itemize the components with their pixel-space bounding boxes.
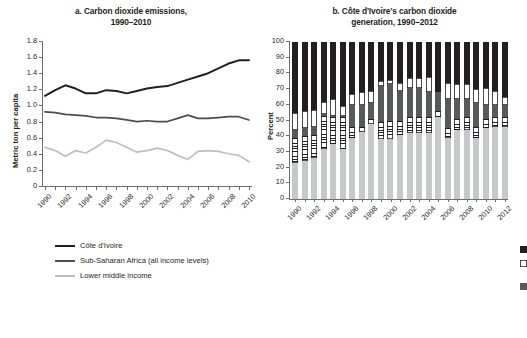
panel-b-bar-segment	[445, 99, 451, 129]
panel-b-bar-segment	[340, 117, 346, 148]
panel-a-x-tick-label: 2010	[233, 192, 258, 217]
panel-b-x-tick	[438, 199, 439, 202]
legend-item: Other sectors, excluding residential bui…	[520, 282, 527, 301]
panel-b-bar-segment	[435, 91, 441, 93]
panel-b-bar-segment	[397, 121, 403, 135]
panel-b-y-tick-label: 100	[263, 37, 284, 44]
panel-b-bar-segment	[311, 158, 317, 199]
panel-a-x-tick-label: 1990	[29, 192, 54, 217]
panel-b-x-tick	[352, 199, 353, 202]
panel-b-bar	[473, 42, 479, 199]
panel-b-bar-segment	[311, 110, 317, 127]
panel-b-bar-segment	[330, 144, 336, 199]
panel-a-line-chart: a. Carbon dioxide emissions, 1990–2010 M…	[0, 0, 262, 338]
panel-b-bar-segment	[302, 161, 308, 199]
panel-b-bar-segment	[426, 133, 432, 199]
panel-a-x-tick	[178, 187, 179, 190]
panel-b-y-tick-label: 90	[263, 53, 284, 60]
panel-b-bar-segment	[416, 117, 422, 133]
panel-b-bar-segment	[502, 97, 508, 105]
panel-b-bar-segment	[454, 42, 460, 84]
panel-a-y-tick	[39, 138, 42, 139]
panel-b-bar-segment	[416, 133, 422, 199]
legend-item-label: Sub-Saharan Africa (all income levels)	[80, 256, 209, 266]
panel-b-x-tick	[381, 199, 382, 202]
panel-b-y-tick	[286, 198, 289, 199]
panel-b-bar-segment	[292, 42, 298, 113]
panel-b-bar-segment	[464, 99, 470, 118]
panel-b-bar-segment	[311, 127, 317, 135]
panel-a-x-tick-label: 2004	[171, 192, 196, 217]
panel-a-y-tick-label: 0	[9, 182, 37, 189]
panel-b-bar	[349, 42, 355, 199]
panel-b-bar-segment	[397, 135, 403, 199]
panel-b-y-tick-label: 30	[263, 147, 284, 154]
figure-root: a. Carbon dioxide emissions, 1990–2010 M…	[0, 0, 527, 338]
panel-a-x-tick	[127, 187, 128, 190]
panel-b-bar-segment	[378, 42, 384, 81]
legend-item-label: Côte d'Ivoire	[80, 241, 122, 251]
legend-line-swatch-icon	[55, 260, 75, 262]
panel-b-bar-segment	[321, 114, 327, 116]
panel-b-bar-segment	[502, 127, 508, 199]
legend-item: Transport	[520, 245, 527, 255]
panel-a-y-tick	[39, 105, 42, 106]
panel-b-bar-segment	[454, 84, 460, 98]
panel-b-title: b. Côte d'Ivoire's carbon dioxide genera…	[262, 6, 527, 28]
panel-a-title: a. Carbon dioxide emissions, 1990–2010	[0, 6, 262, 28]
panel-a-x-tick	[65, 187, 66, 190]
panel-b-bars	[289, 41, 508, 199]
panel-b-bar-segment	[473, 138, 479, 199]
legend-swatch-icon	[520, 246, 527, 253]
panel-b-x-tick-label: 2000	[374, 204, 399, 229]
panel-a-y-tick	[39, 170, 42, 171]
panel-b-bar-segment	[368, 119, 374, 124]
panel-b-bar-segment	[378, 81, 384, 86]
panel-b-bar-segment	[340, 106, 346, 115]
panel-b-x-tick	[419, 199, 420, 202]
panel-a-x-tick-label: 1994	[69, 192, 94, 217]
panel-b-plot-area	[289, 41, 508, 200]
panel-b-x-tick	[476, 199, 477, 202]
panel-b-bar-segment	[483, 42, 489, 88]
panel-b-x-tick	[457, 199, 458, 202]
panel-b-bar-segment	[387, 42, 393, 80]
panel-b-bar-segment	[435, 117, 441, 199]
panel-a-x-tick-label: 2006	[192, 192, 217, 217]
panel-a-x-tick	[229, 187, 230, 190]
panel-a-series-line	[45, 60, 249, 95]
panel-b-bar-segment	[359, 105, 365, 127]
panel-a-x-tick	[167, 187, 168, 190]
panel-b-bar-segment	[292, 113, 298, 130]
panel-b-bar	[359, 42, 365, 199]
panel-b-bar-segment	[426, 117, 432, 133]
panel-a-y-tick-label: 1.8	[9, 37, 37, 44]
panel-b-x-tick	[333, 199, 334, 202]
panel-b-bar-segment	[483, 128, 489, 199]
panel-a-y-tick	[39, 122, 42, 123]
panel-a-series-line	[45, 112, 249, 122]
panel-a-series-line	[45, 140, 249, 162]
panel-b-bar	[302, 42, 308, 199]
panel-b-y-tick	[286, 182, 289, 183]
panel-b-x-tick	[362, 199, 363, 202]
panel-b-bar	[502, 42, 508, 199]
panel-b-bar-segment	[330, 117, 336, 144]
panel-b-bar-segment	[387, 121, 393, 140]
panel-a-x-tick	[239, 187, 240, 190]
panel-a-plot-area	[42, 41, 252, 187]
panel-b-bar	[387, 42, 393, 199]
panel-b-bar-segment	[502, 105, 508, 118]
panel-b-bar-segment	[368, 124, 374, 199]
legend-swatch-icon	[520, 283, 527, 290]
panel-b-y-tick-label: 70	[263, 84, 284, 91]
panel-b-bar-segment	[387, 80, 393, 85]
panel-b-bar	[483, 42, 489, 199]
panel-b-bar-segment	[407, 117, 413, 133]
panel-b-bar-segment	[330, 116, 336, 118]
panel-b-bar	[378, 42, 384, 199]
panel-b-bar-segment	[473, 127, 479, 138]
panel-b-bar-segment	[407, 88, 413, 118]
panel-b-bar-segment	[502, 117, 508, 126]
panel-a-x-tick	[96, 187, 97, 190]
